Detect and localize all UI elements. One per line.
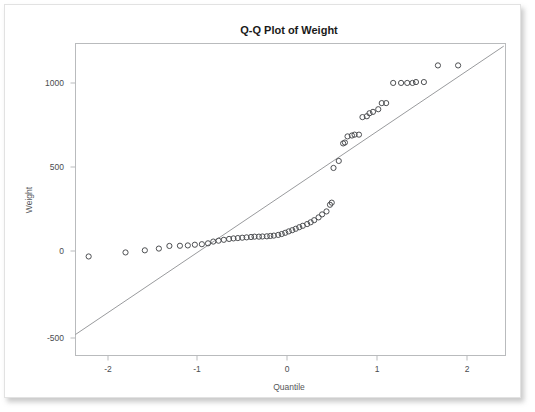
x-tick-label: -2	[104, 364, 112, 374]
x-axis-label: Quantile	[273, 382, 305, 392]
x-axis-tick-labels: -2 -1 0 1 2	[104, 364, 469, 374]
y-tick-label: -500	[47, 333, 64, 343]
x-axis-ticks	[108, 356, 467, 361]
reference-line-group	[76, 46, 504, 334]
data-point	[177, 243, 182, 248]
y-tick-label: 0	[59, 246, 64, 256]
data-point	[123, 250, 128, 255]
x-tick-label: 2	[465, 364, 470, 374]
data-point-group	[86, 0, 495, 259]
data-point	[156, 246, 161, 251]
data-point	[398, 80, 403, 85]
y-axis-tick-labels: 1000 500 0 -500	[45, 78, 64, 343]
data-point	[192, 242, 197, 247]
y-tick-label: 1000	[45, 78, 64, 88]
data-point	[86, 254, 91, 259]
data-point	[490, 0, 495, 3]
x-tick-label: 1	[375, 364, 380, 374]
data-point	[324, 209, 329, 214]
screenshot-page: Q-Q Plot of Weight -2 -1 0 1 2	[0, 0, 535, 412]
data-point	[316, 215, 321, 220]
chart-title: Q-Q Plot of Weight	[240, 24, 338, 36]
data-point	[410, 80, 415, 85]
data-point	[221, 237, 226, 242]
data-point	[167, 243, 172, 248]
qq-plot-figure: Q-Q Plot of Weight -2 -1 0 1 2	[0, 0, 535, 412]
data-point	[199, 242, 204, 247]
y-tick-label: 500	[50, 162, 64, 172]
data-point	[342, 140, 347, 145]
data-point	[391, 80, 396, 85]
data-point	[142, 248, 147, 253]
plot-frame	[76, 44, 506, 356]
data-point	[376, 107, 381, 112]
data-point	[331, 165, 336, 170]
data-point	[185, 243, 190, 248]
normal-reference-line	[76, 46, 504, 334]
data-point	[279, 231, 284, 236]
data-point	[435, 63, 440, 68]
y-axis-label: Weight	[24, 186, 34, 213]
x-tick-label: 0	[285, 364, 290, 374]
y-axis-ticks	[71, 83, 76, 338]
x-tick-label: -1	[193, 364, 201, 374]
data-point	[405, 80, 410, 85]
data-point	[421, 79, 426, 84]
qq-plot-svg: Q-Q Plot of Weight -2 -1 0 1 2	[0, 0, 535, 412]
data-point	[413, 79, 418, 84]
data-point	[456, 63, 461, 68]
data-point	[336, 158, 341, 163]
data-point	[216, 238, 221, 243]
